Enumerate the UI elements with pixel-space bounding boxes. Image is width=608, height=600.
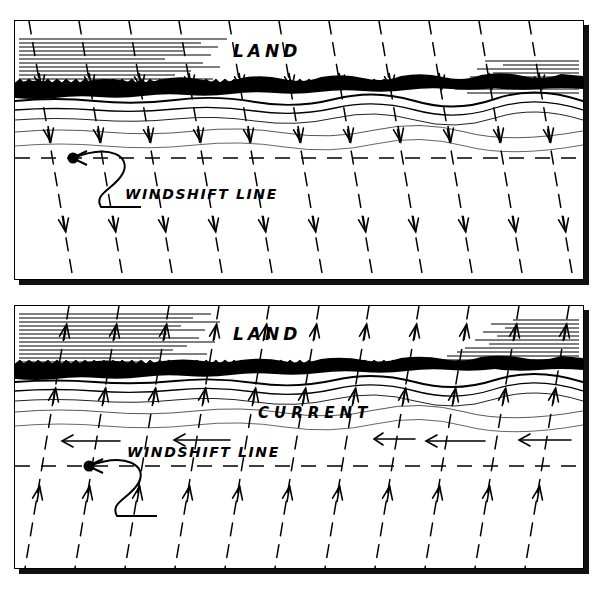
water-lines: [15, 92, 583, 151]
hatch-top-right-icon: [439, 320, 579, 360]
windshift-line-label: WINDSHIFT LINE: [125, 186, 278, 202]
onshore-wind-panel: LAND CURRENT WINDSHIFT LINE: [14, 305, 584, 569]
wind-streamlines-onshore: [25, 306, 569, 568]
figure-sheet: LAND WINDSHIFT LINE: [0, 0, 608, 600]
current-label: CURRENT: [258, 404, 372, 422]
shoreline-band: [15, 356, 583, 380]
land-label: LAND: [233, 41, 301, 61]
onshore-panel-canvas: [15, 306, 583, 568]
shoreline-band: [15, 73, 583, 99]
land-label: LAND: [233, 324, 301, 344]
windshift-leader-curve: [89, 460, 157, 516]
offshore-wind-panel: LAND WINDSHIFT LINE: [14, 20, 584, 280]
windshift-line-label: WINDSHIFT LINE: [127, 444, 280, 460]
